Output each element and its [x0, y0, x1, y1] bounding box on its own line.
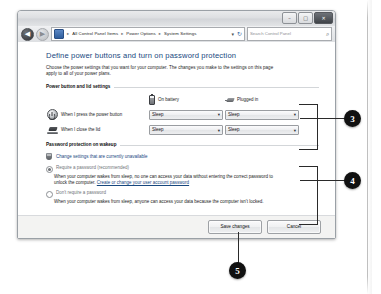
password-section: Password protection on wakeup Change set… [46, 142, 319, 205]
breadcrumb-item-2[interactable]: System Settings [164, 31, 197, 37]
column-headers: On battery Plugged in [149, 95, 319, 105]
dropdown-value: Sleep [152, 127, 164, 133]
description-no-password: When your computer wakes from sleep, any… [46, 199, 282, 205]
chevron-down-icon[interactable]: ▾ [231, 32, 235, 37]
callout-leader-4 [300, 180, 345, 181]
settings-content: Define power buttons and turn on passwor… [18, 42, 335, 238]
breadcrumb-separator-0: ▸ [66, 31, 70, 37]
column-plugged-in: Plugged in [225, 95, 301, 105]
dropdown-value: Sleep [228, 127, 240, 133]
dropdown-close-lid-on-battery[interactable]: Sleep ▾ [149, 125, 223, 135]
dropdown-value: Sleep [228, 112, 240, 118]
scanned-book-page: – □ ✕ ◀ ▶ ▸ All Control Panel Items [0, 0, 381, 294]
callout-marker-3: 3 [344, 110, 361, 127]
radio-require-password[interactable] [46, 166, 53, 173]
window-controls: – □ ✕ [282, 12, 333, 24]
dialog-footer: Save changes Cancel [18, 215, 335, 238]
create-change-password-link[interactable]: Create or change your user account passw… [97, 180, 189, 185]
change-settings-link[interactable]: Change settings that are currently unava… [56, 154, 148, 160]
shield-icon [46, 153, 52, 160]
breadcrumb-separator-1: ▸ [120, 31, 124, 37]
chevron-down-icon: ▾ [294, 112, 296, 117]
window-titlebar: – □ ✕ [18, 11, 335, 27]
callout-bracket-3 [299, 104, 318, 150]
dropdown-close-lid-plugged-in[interactable]: Sleep ▾ [225, 125, 299, 135]
close-icon: ✕ [321, 16, 325, 21]
battery-icon [149, 95, 155, 105]
power-section-header: Power button and lid settings [46, 84, 319, 90]
chevron-down-icon: ▾ [294, 128, 296, 133]
back-arrow-icon: ◀ [25, 31, 30, 38]
radio-label-require-password: Require a password (recommended) [56, 165, 129, 171]
option-require-password: Require a password (recommended) When yo… [46, 165, 319, 186]
column-on-battery: On battery [149, 95, 225, 105]
address-bar[interactable]: ▸ All Control Panel Items ▸ Power Option… [51, 27, 245, 41]
search-placeholder: Search Control Panel [250, 31, 291, 37]
refresh-icon[interactable]: ↻ [237, 31, 242, 37]
setting-label-close-lid: When I close the lid [58, 127, 149, 133]
laptop-lid-icon-wrap [46, 127, 58, 134]
change-settings-row[interactable]: Change settings that are currently unava… [46, 153, 319, 160]
option-no-password: Don't require a password When your compu… [46, 190, 319, 205]
callout-leader-5 [238, 232, 239, 263]
description-require-password: When your computer wakes from sleep, no … [46, 174, 282, 186]
callout-bracket-4 [299, 166, 318, 225]
radio-label-no-password: Don't require a password [56, 190, 106, 196]
minimize-button[interactable]: – [282, 12, 297, 24]
callout-marker-5: 5 [229, 262, 246, 279]
page-intro-text: Choose the power settings that you want … [46, 65, 280, 77]
callout-leader-3 [300, 118, 345, 119]
close-button[interactable]: ✕ [314, 12, 333, 24]
plug-icon [225, 97, 234, 103]
setting-label-power-button: When I press the power button [58, 112, 149, 118]
power-button-icon [47, 109, 58, 120]
system-settings-window: – □ ✕ ◀ ▶ ▸ All Control Panel Items [17, 10, 336, 239]
breadcrumb-separator-2: ▸ [158, 31, 162, 37]
radio-line-require-password[interactable]: Require a password (recommended) [46, 165, 319, 173]
navigation-bar: ◀ ▶ ▸ All Control Panel Items ▸ Power Op… [18, 26, 335, 43]
password-section-header: Password protection on wakeup [46, 142, 319, 148]
control-panel-icon [54, 29, 64, 39]
minimize-icon: – [288, 16, 291, 21]
radio-line-no-password[interactable]: Don't require a password [46, 190, 319, 198]
dropdown-power-button-plugged-in[interactable]: Sleep ▾ [225, 110, 299, 120]
radio-no-password[interactable] [46, 191, 53, 198]
setting-row-power-button: When I press the power button Sleep ▾ Sl… [46, 109, 319, 120]
section-divider [114, 87, 319, 88]
maximize-button[interactable]: □ [298, 12, 313, 24]
power-button-icon-wrap [46, 109, 58, 120]
forward-arrow-icon: ▶ [40, 31, 45, 38]
search-icon: ⌕ [326, 31, 329, 37]
dropdown-value: Sleep [152, 112, 164, 118]
chevron-down-icon: ▾ [218, 112, 220, 117]
chevron-down-icon: ▾ [218, 128, 220, 133]
password-section-title: Password protection on wakeup [46, 142, 116, 148]
forward-button[interactable]: ▶ [36, 28, 49, 41]
column-on-battery-label: On battery [158, 97, 179, 103]
power-section-title: Power button and lid settings [46, 84, 110, 90]
search-input[interactable]: Search Control Panel ⌕ [247, 27, 332, 41]
page-edge-line [367, 0, 368, 294]
section-divider [120, 145, 319, 146]
column-plugged-in-label: Plugged in [237, 97, 258, 103]
page-title: Define power buttons and turn on passwor… [46, 51, 319, 61]
breadcrumb-item-1[interactable]: Power Options [126, 31, 155, 37]
back-button[interactable]: ◀ [21, 28, 34, 41]
setting-row-close-lid: When I close the lid Sleep ▾ Sleep ▾ [46, 125, 319, 135]
breadcrumb-item-0[interactable]: All Control Panel Items [72, 31, 118, 37]
save-changes-button[interactable]: Save changes [208, 220, 262, 234]
laptop-lid-icon [47, 127, 58, 134]
maximize-icon: □ [303, 16, 308, 21]
dropdown-power-button-on-battery[interactable]: Sleep ▾ [149, 110, 223, 120]
callout-marker-4: 4 [344, 172, 361, 189]
